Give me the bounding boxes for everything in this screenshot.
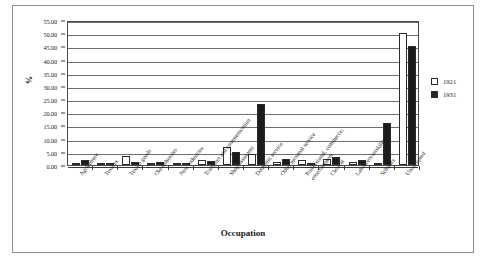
legend-label: 1931: [443, 91, 456, 98]
bar-1921: [122, 156, 130, 165]
bar-group: [143, 22, 168, 165]
x-tick-mark: [293, 166, 294, 170]
y-axis-tick-labels: 0.005.0010.0015.0020.0025.0030.0035.0040…: [13, 21, 63, 166]
bar-1921: [298, 160, 306, 165]
x-tick-mark: [268, 166, 269, 170]
y-tick-label: 20.00: [44, 110, 57, 117]
legend-item-1931[interactable]: 1931: [431, 91, 456, 98]
y-tick-mark: [61, 47, 65, 48]
x-tick-mark: [92, 166, 93, 170]
y-tick-mark: [61, 21, 65, 22]
bar-group: [194, 22, 219, 165]
chart-legend: 19211931: [431, 78, 456, 98]
x-tick-mark: [394, 166, 395, 170]
y-tick-mark: [61, 139, 65, 140]
bar-group: [93, 22, 118, 165]
y-tick-label: 50.00: [44, 31, 57, 38]
bar-group: [244, 22, 269, 165]
y-tick-mark: [61, 86, 65, 87]
bar-1921: [273, 162, 281, 165]
y-tick-label: 40.00: [44, 57, 57, 64]
y-tick-label: 55.00: [44, 18, 57, 25]
legend-label: 1921: [443, 78, 456, 85]
y-tick-label: 35.00: [44, 70, 57, 77]
y-tick-label: 25.00: [44, 97, 57, 104]
x-tick-mark: [369, 166, 370, 170]
x-tick-mark: [117, 166, 118, 170]
x-tick-mark: [218, 166, 219, 170]
plot-area: [67, 21, 419, 166]
bar-1921: [147, 163, 155, 165]
y-tick-mark: [61, 60, 65, 61]
legend-swatch-icon: [431, 91, 438, 98]
bar-group: [169, 22, 194, 165]
bar-1921: [97, 163, 105, 165]
y-tick-label: 30.00: [44, 83, 57, 90]
y-tick-label: 5.00: [47, 149, 57, 156]
x-tick-mark: [168, 166, 169, 170]
x-tick-mark: [243, 166, 244, 170]
x-tick-mark: [419, 166, 420, 170]
y-tick-mark: [61, 34, 65, 35]
bar-group: [68, 22, 93, 165]
x-axis-title: Occupation: [13, 228, 473, 238]
y-tick-mark: [61, 166, 65, 167]
legend-item-1921[interactable]: 1921: [431, 78, 456, 85]
x-tick-mark: [193, 166, 194, 170]
y-tick-mark: [61, 73, 65, 74]
bar-1931: [408, 46, 416, 165]
x-tick-mark: [142, 166, 143, 170]
bar-1931: [257, 104, 265, 165]
y-tick-mark: [61, 152, 65, 153]
bar-group: [345, 22, 370, 165]
bar-1921: [374, 163, 382, 165]
x-tick-mark: [344, 166, 345, 170]
y-tick-mark: [61, 100, 65, 101]
bar-1921: [198, 160, 206, 165]
bar-1921: [399, 33, 407, 165]
y-tick-label: 15.00: [44, 123, 57, 130]
bar-1921: [173, 163, 181, 165]
y-tick-mark: [61, 126, 65, 127]
bar-1921: [72, 163, 80, 165]
legend-swatch-icon: [431, 78, 438, 85]
y-tick-label: 45.00: [44, 44, 57, 51]
y-tick-label: 0.00: [47, 163, 57, 170]
bar-group: [395, 22, 420, 165]
y-tick-label: 10.00: [44, 136, 57, 143]
bar-group: [118, 22, 143, 165]
chart-figure: % 0.005.0010.0015.0020.0025.0030.0035.00…: [12, 5, 474, 253]
y-tick-mark: [61, 113, 65, 114]
bar-1921: [349, 162, 357, 165]
